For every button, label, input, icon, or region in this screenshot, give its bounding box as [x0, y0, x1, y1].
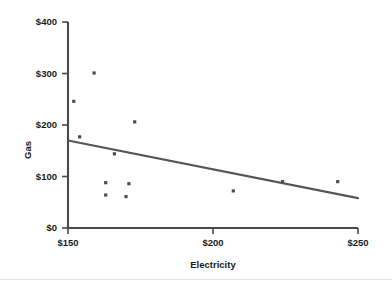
data-point — [336, 180, 339, 183]
data-point — [104, 193, 107, 196]
y-axis-title: Gas — [22, 141, 33, 159]
y-tick-label: $0 — [46, 222, 57, 233]
y-tick-label: $300 — [36, 68, 57, 79]
data-point — [133, 120, 136, 123]
chart-canvas: $0$100$200$300$400 $150$200$250 Gas Elec… — [0, 0, 392, 287]
y-tick-label: $400 — [36, 16, 57, 27]
data-point — [104, 181, 107, 184]
data-point — [93, 71, 96, 74]
data-point — [127, 182, 130, 185]
page-bottom-edge — [0, 279, 392, 287]
x-tick-label: $150 — [57, 237, 78, 248]
scatter-chart: $0$100$200$300$400 $150$200$250 Gas Elec… — [0, 0, 392, 287]
data-point — [78, 135, 81, 138]
data-point — [124, 195, 127, 198]
y-tick-label: $100 — [36, 171, 57, 182]
x-tick-label: $200 — [202, 237, 223, 248]
x-tick-label: $250 — [347, 237, 368, 248]
data-point — [113, 152, 116, 155]
data-point — [72, 100, 75, 103]
y-tick-label: $200 — [36, 119, 57, 130]
x-axis-title: Electricity — [190, 259, 236, 270]
data-point — [232, 189, 235, 192]
data-point — [281, 180, 284, 183]
